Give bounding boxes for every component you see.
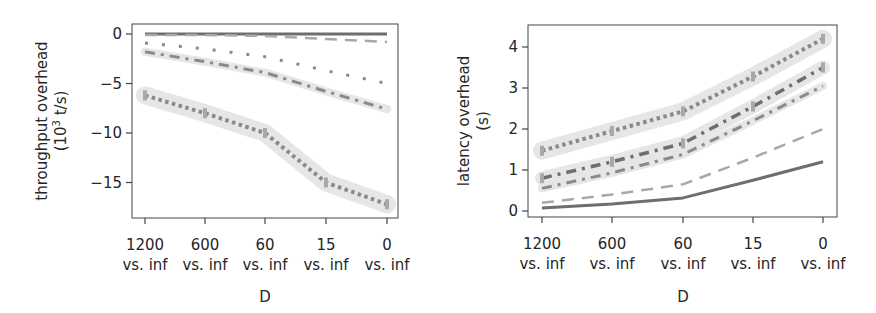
x-tick-label-sub: vs. inf: [364, 256, 410, 274]
x-axis-ticks: 1200vs. inf600vs. inf60vs. inf15vs. inf0…: [519, 217, 846, 273]
x-tick-label: 60: [255, 236, 274, 254]
confidence-band: [542, 68, 823, 179]
error-marker: [681, 106, 685, 116]
y-axis-label: throughput overhead (103 t/s): [33, 41, 70, 200]
y-axis-label: latency overhead (s): [455, 56, 492, 187]
y-tick-label: −10: [90, 124, 122, 142]
x-tick-label: 60: [673, 235, 692, 253]
error-marker: [203, 108, 207, 118]
error-marker: [540, 146, 544, 156]
y-axis-label-line2: (s): [474, 111, 492, 131]
x-tick-label-sub: vs. inf: [589, 255, 635, 273]
x-tick-label: 0: [818, 235, 828, 253]
x-tick-label-sub: vs. inf: [660, 255, 706, 273]
error-marker: [751, 72, 755, 82]
y-tick-label: −5: [100, 75, 122, 93]
x-axis-label: D: [677, 288, 689, 306]
error-marker: [263, 128, 267, 138]
error-marker: [610, 126, 614, 136]
x-tick-label-sub: vs. inf: [122, 256, 168, 274]
y-tick-label: 0: [112, 25, 122, 43]
error-marker: [385, 199, 389, 209]
x-tick-label: 1200: [523, 235, 561, 253]
latency-plot: 01234 1200vs. inf600vs. inf60vs. inf15vs…: [455, 25, 846, 306]
y-axis-label-line1: latency overhead: [455, 56, 473, 187]
x-tick-label: 600: [598, 235, 627, 253]
x-tick-label-sub: vs. inf: [800, 255, 846, 273]
y-axis-label-line2: (103 t/s): [51, 91, 70, 152]
throughput-plot: 0−5−10−15 1200vs. inf600vs. inf60vs. inf…: [33, 24, 410, 306]
error-marker: [540, 173, 544, 183]
y-tick-label: 0: [508, 202, 518, 220]
x-tick-label: 1200: [126, 236, 164, 254]
x-tick-label: 600: [191, 236, 220, 254]
y-tick-label: 1: [508, 161, 518, 179]
x-tick-label-sub: vs. inf: [730, 255, 776, 273]
series-line-series-2: [145, 35, 387, 42]
y-axis-label-line1: throughput overhead: [33, 41, 51, 200]
x-tick-label-sub: vs. inf: [519, 255, 565, 273]
y-axis-ticks: 0−5−10−15: [90, 25, 132, 192]
error-marker: [143, 90, 147, 100]
error-marker: [610, 157, 614, 167]
x-tick-label: 15: [316, 236, 335, 254]
y-tick-label: 3: [508, 79, 518, 97]
figure: 0−5−10−15 1200vs. inf600vs. inf60vs. inf…: [0, 0, 876, 313]
x-axis-ticks: 1200vs. inf600vs. inf60vs. inf15vs. inf0…: [122, 218, 410, 274]
y-axis-ticks: 01234: [508, 38, 528, 220]
x-tick-label-sub: vs. inf: [303, 256, 349, 274]
x-tick-label: 0: [382, 236, 392, 254]
x-tick-label-sub: vs. inf: [182, 256, 228, 274]
error-marker: [681, 138, 685, 148]
x-tick-label: 15: [743, 235, 762, 253]
x-tick-label-sub: vs. inf: [242, 256, 288, 274]
error-marker: [324, 178, 328, 188]
confidence-band: [145, 95, 387, 204]
y-tick-label: −15: [90, 174, 122, 192]
error-marker: [821, 63, 825, 73]
error-marker: [751, 101, 755, 111]
y-tick-label: 4: [508, 38, 518, 56]
series-line-series-3: [145, 43, 387, 84]
y-tick-label: 2: [508, 120, 518, 138]
chart-canvas: 0−5−10−15 1200vs. inf600vs. inf60vs. inf…: [0, 0, 876, 313]
x-axis-label: D: [259, 288, 271, 306]
error-marker: [821, 34, 825, 44]
